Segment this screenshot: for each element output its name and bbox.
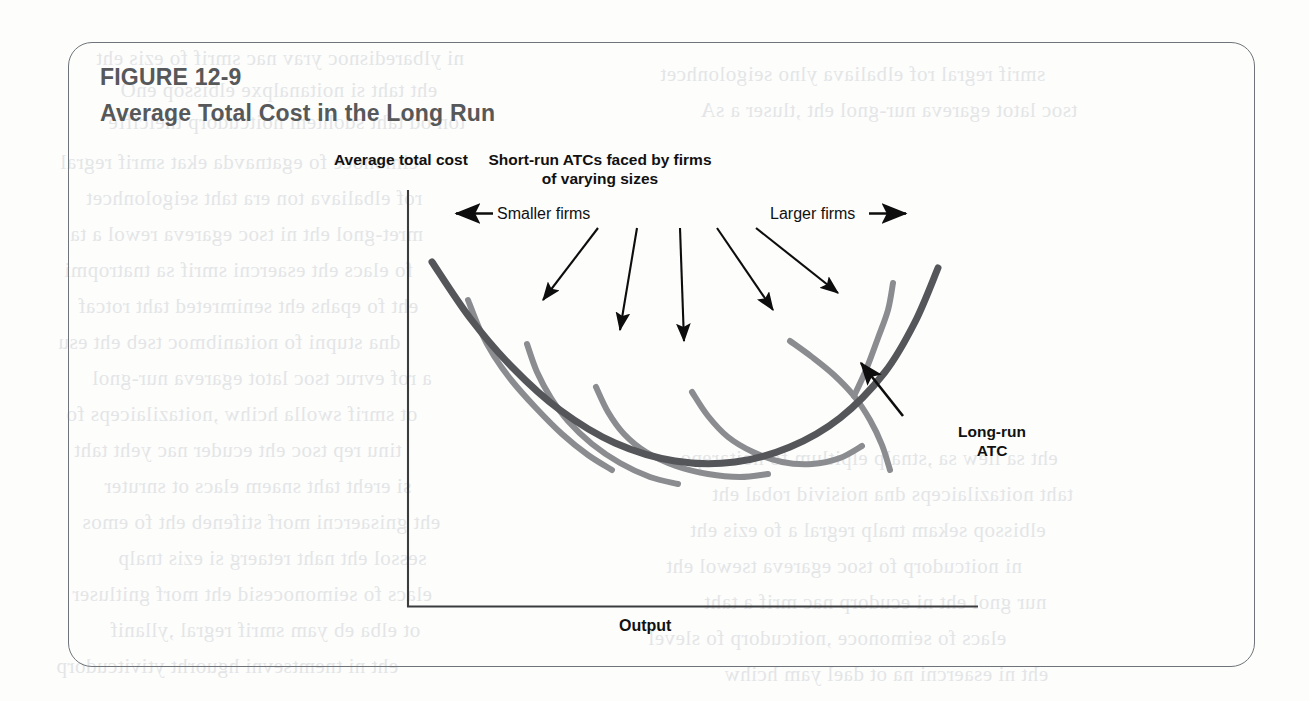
page-background: ni ylbaredisnoc yrav nac smrif fo ezis e… — [0, 0, 1309, 701]
smaller-firms-label: Smaller firms — [497, 204, 590, 224]
short-run-note-line-2: of varying sizes — [542, 170, 658, 187]
long-run-atc-line-2: ATC — [977, 442, 1008, 459]
short-run-note-line-1: Short-run ATCs faced by firms — [488, 151, 711, 168]
figure-number: FIGURE 12-9 — [100, 64, 242, 91]
short-run-atc-annotation: Short-run ATCs faced by firms of varying… — [475, 150, 725, 189]
x-axis-label: Output — [619, 616, 671, 636]
y-axis-label: Average total cost — [334, 150, 468, 169]
larger-firms-label: Larger firms — [770, 204, 855, 224]
long-run-atc-label: Long-run ATC — [937, 422, 1047, 461]
figure-title: Average Total Cost in the Long Run — [100, 100, 495, 127]
figure-box — [68, 42, 1255, 667]
long-run-atc-line-1: Long-run — [958, 423, 1026, 440]
